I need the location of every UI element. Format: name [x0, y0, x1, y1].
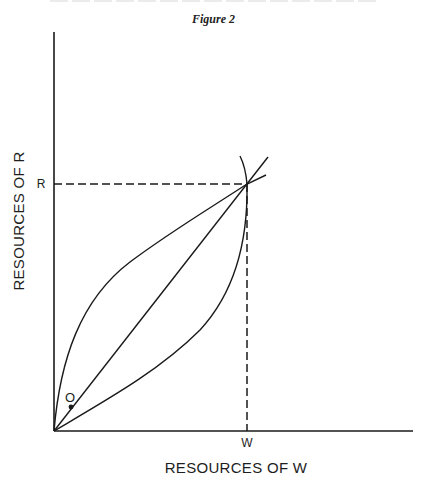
- point-o-label: O: [65, 390, 75, 405]
- y-axis-label: RESOURCES OF R: [10, 151, 27, 290]
- upper-curve: [54, 175, 266, 431]
- x-tick-w: W: [241, 436, 252, 450]
- point-o-marker: [69, 405, 74, 410]
- diagonal-line: [54, 157, 268, 431]
- diagram-canvas: [0, 0, 427, 486]
- y-tick-r: R: [37, 177, 46, 191]
- x-axis-label: RESOURCES OF W: [165, 459, 308, 476]
- lower-curve: [54, 156, 247, 431]
